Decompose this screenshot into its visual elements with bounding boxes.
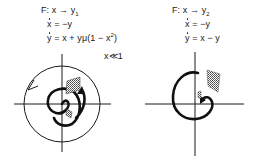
right-large-patch <box>207 70 220 92</box>
left-small-patch <box>66 109 72 118</box>
left-phase-portrait <box>14 54 111 152</box>
right-spiral-trajectory <box>173 72 212 119</box>
left-large-patch <box>66 77 80 94</box>
right-phase-portrait <box>145 52 244 156</box>
phase-portraits <box>0 0 256 165</box>
right-small-patch <box>198 91 201 98</box>
left-spiral-trajectory <box>48 89 85 126</box>
